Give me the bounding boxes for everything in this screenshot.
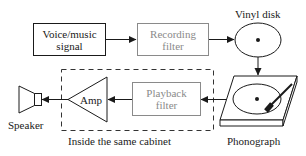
playback-filter-label: Playback filter <box>133 83 200 115</box>
speaker-icon <box>19 86 42 113</box>
phonograph-label: Phonograph <box>227 135 280 147</box>
signal-chain-diagram: Voice/music signal Recording filter Play… <box>0 0 306 156</box>
phonograph-icon <box>220 76 297 126</box>
vinyl-disk-label: Vinyl disk <box>235 8 280 20</box>
amp-label: Amp <box>80 94 102 106</box>
voice-signal-label: Voice/music signal <box>34 24 105 55</box>
cabinet-label: Inside the same cabinet <box>68 135 171 147</box>
vinyl-disk-icon <box>235 23 281 57</box>
speaker-label: Speaker <box>8 119 43 131</box>
recording-filter-label: Recording filter <box>138 24 208 55</box>
